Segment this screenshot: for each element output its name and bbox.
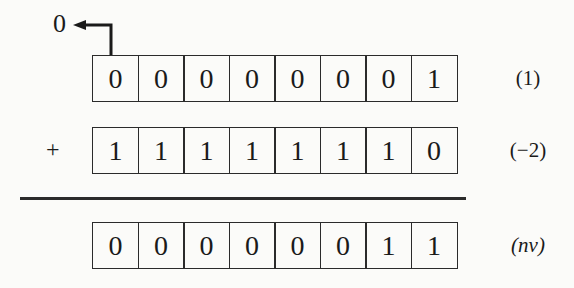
- bit-cell: 1: [183, 127, 230, 174]
- bit-cell: 0: [183, 222, 230, 269]
- row-label-operand-2: (−2): [499, 137, 557, 163]
- plus-operator: +: [46, 136, 60, 162]
- carry-arrow-icon: [70, 18, 116, 60]
- bit-cell: 1: [274, 127, 321, 174]
- bit-cell: 0: [229, 55, 276, 102]
- bit-cell: 1: [411, 55, 458, 102]
- bit-cell: 1: [320, 127, 367, 174]
- bit-cell: 0: [229, 222, 276, 269]
- bit-cell: 0: [92, 222, 139, 269]
- result-row: 0 0 0 0 0 0 1 1: [92, 222, 458, 269]
- bit-cell: 0: [138, 55, 185, 102]
- bit-cell: 1: [229, 127, 276, 174]
- bit-cell: 0: [138, 222, 185, 269]
- bit-cell: 0: [320, 55, 367, 102]
- bit-cell: 1: [365, 222, 412, 269]
- bit-cell: 0: [92, 55, 139, 102]
- binary-addition-figure: 0 + 0 0 0 0 0 0 0 1 (1) 1 1 1 1 1 1 1 0 …: [0, 0, 574, 288]
- bit-cell: 0: [274, 55, 321, 102]
- sum-rule-line: [20, 197, 466, 200]
- carry-out-value: 0: [53, 10, 66, 38]
- operand-row-1: 0 0 0 0 0 0 0 1: [92, 55, 458, 102]
- operand-row-2: 1 1 1 1 1 1 1 0: [92, 127, 458, 174]
- bit-cell: 1: [411, 222, 458, 269]
- bit-cell: 1: [365, 127, 412, 174]
- row-label-result: (nv): [499, 232, 557, 258]
- bit-cell: 0: [411, 127, 458, 174]
- bit-cell: 0: [365, 55, 412, 102]
- bit-cell: 1: [138, 127, 185, 174]
- bit-cell: 1: [92, 127, 139, 174]
- bit-cell: 0: [274, 222, 321, 269]
- bit-cell: 0: [183, 55, 230, 102]
- row-label-operand-1: (1): [499, 65, 557, 91]
- bit-cell: 0: [320, 222, 367, 269]
